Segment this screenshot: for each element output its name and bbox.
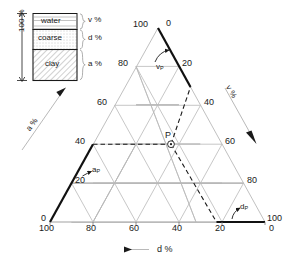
tick-v-40: 40	[204, 98, 214, 107]
inset-total-label: 100 %	[18, 9, 26, 32]
tick-d-0: 0	[269, 224, 274, 233]
tick-a-60: 60	[97, 98, 107, 107]
label-d-p-sub: P	[244, 205, 248, 211]
tick-a-40: 40	[75, 137, 85, 146]
inset-label-coarse: coarse	[38, 34, 62, 42]
inset-fraction-d: d %	[88, 34, 102, 42]
tick-a-0: 0	[41, 214, 46, 223]
tick-a-20: 20	[75, 176, 85, 185]
label-v-p-sub: P	[160, 65, 164, 71]
label-v-p: vP	[156, 63, 164, 72]
axis-arrow-a	[22, 88, 66, 151]
apex-label-left: 100	[133, 20, 148, 29]
apex-label-right: 0	[166, 19, 171, 28]
construction-lines	[93, 87, 217, 222]
tick-d-60: 60	[129, 224, 139, 233]
inset-fraction-v: v %	[88, 16, 101, 24]
label-a-p: aP	[92, 166, 100, 175]
callout-arrow-v-p	[155, 50, 169, 62]
tick-v-80: 80	[247, 176, 257, 185]
inset-label-water: water	[41, 17, 61, 25]
label-a-p-sub: P	[96, 168, 100, 174]
axis-arrow-d	[124, 247, 149, 253]
tick-d-100: 100	[39, 224, 54, 233]
point-p-label: P	[165, 131, 171, 140]
inset-label-clay: clay	[45, 60, 59, 68]
point-p-marker[interactable]	[168, 141, 175, 148]
label-d-p: dP	[240, 203, 248, 212]
tick-d-20: 20	[215, 224, 225, 233]
tick-v-100: 100	[267, 214, 282, 223]
tick-d-40: 40	[172, 224, 182, 233]
tick-a-80: 80	[118, 59, 128, 68]
tick-v-60: 60	[225, 137, 235, 146]
tick-d-80: 80	[86, 224, 96, 233]
inset-fraction-brackets	[80, 14, 85, 80]
callout-arrow-d-p	[232, 208, 240, 219]
inset-fraction-a: a %	[88, 60, 102, 68]
axis-label-d: d %	[157, 245, 173, 254]
construction-line-v	[171, 87, 191, 144]
tick-v-20: 20	[182, 59, 192, 68]
